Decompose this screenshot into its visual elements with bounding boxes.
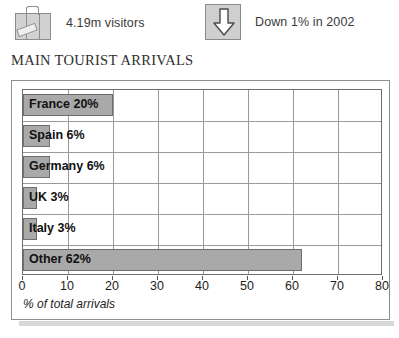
tick-label-80: 80	[375, 279, 389, 293]
tick-label-10: 10	[60, 279, 74, 293]
tick-label-40: 40	[195, 279, 209, 293]
figure-shadow	[19, 321, 394, 326]
chart-title: MAIN TOURIST ARRIVALS	[11, 52, 194, 69]
chart-figure-frame: France 20%Spain 6%Germany 6%UK 3%Italy 3…	[11, 80, 390, 320]
bar-row-france: France 20%	[23, 90, 381, 121]
x-axis: 01020304050607080	[22, 276, 382, 294]
bar-label-other: Other 62%	[29, 251, 91, 268]
tick-label-50: 50	[240, 279, 254, 293]
bar-row-other: Other 62%	[23, 245, 381, 276]
bar-label-spain: Spain 6%	[29, 127, 85, 144]
x-axis-caption: % of total arrivals	[23, 297, 115, 311]
down-arrow-icon	[205, 4, 241, 40]
trend-value-label: Down 1% in 2002	[255, 15, 354, 29]
bar-label-germany: Germany 6%	[29, 158, 105, 175]
bar-row-uk: UK 3%	[23, 183, 381, 214]
visitors-value-label: 4.19m visitors	[66, 16, 145, 30]
tick-label-20: 20	[105, 279, 119, 293]
tick-label-70: 70	[330, 279, 344, 293]
header-strip: 4.19m visitors Down 1% in 2002	[0, 0, 399, 48]
bar-label-uk: UK 3%	[29, 189, 69, 206]
bar-row-italy: Italy 3%	[23, 214, 381, 245]
tick-label-60: 60	[285, 279, 299, 293]
chart-plot-area: France 20%Spain 6%Germany 6%UK 3%Italy 3…	[22, 89, 382, 275]
bar-row-germany: Germany 6%	[23, 152, 381, 183]
bar-row-spain: Spain 6%	[23, 121, 381, 152]
bar-label-france: France 20%	[29, 96, 98, 113]
tick-label-30: 30	[150, 279, 164, 293]
tick-label-0: 0	[19, 279, 26, 293]
suitcase-icon	[14, 4, 52, 42]
stat-visitors: 4.19m visitors	[14, 4, 145, 42]
stat-trend: Down 1% in 2002	[205, 4, 354, 40]
suitcase-divider-right	[39, 13, 40, 40]
bar-label-italy: Italy 3%	[29, 220, 76, 237]
suitcase-handle	[26, 6, 39, 15]
